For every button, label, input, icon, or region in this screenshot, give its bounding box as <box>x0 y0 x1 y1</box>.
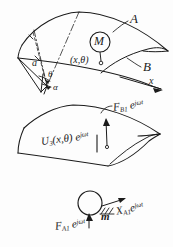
meridian-line-1 <box>47 12 79 86</box>
tick-upper <box>29 35 33 39</box>
meridian-line-2 <box>34 30 47 86</box>
leader-line-a <box>113 21 128 32</box>
coordinate-point-dot <box>99 61 103 65</box>
figure-root: A B M (x,θ) a θ α x FB1 ejωt U3(x,θ) ejω… <box>0 0 173 247</box>
leader-a-path <box>113 21 128 32</box>
hatch-1 <box>101 208 105 214</box>
mass-marker-stem <box>100 52 101 61</box>
wedge-left-line <box>18 58 47 86</box>
middle-panel-left-edge <box>18 128 24 153</box>
middle-panel-lower-edge <box>18 153 108 166</box>
x-axis <box>120 77 161 89</box>
upper-panel-bottom-edge <box>18 58 152 86</box>
upper-shell-panel <box>18 12 168 89</box>
hatch-3 <box>109 208 113 214</box>
middle-panel-top-edge <box>24 105 160 134</box>
wedge-generator-lines <box>18 58 47 94</box>
leader-b-path <box>127 58 141 67</box>
mass-marker-circle <box>90 32 110 52</box>
mass-support-hatch <box>100 208 114 214</box>
disp-xa1-arrowhead <box>118 198 126 203</box>
upper-panel-right-tip <box>143 51 168 52</box>
x-axis-line <box>120 77 161 89</box>
lumped-mass-circle <box>78 191 102 215</box>
force-b1-arrowhead <box>103 118 110 126</box>
sketch-canvas <box>0 0 173 247</box>
leader-line-b <box>127 58 141 67</box>
x-axis-arrowhead <box>153 88 163 93</box>
radius-tick-marks <box>29 35 39 60</box>
upper-panel-left-edge <box>18 45 22 58</box>
middle-panel-lower-right <box>108 134 160 166</box>
force-b1-base-dot <box>105 145 108 148</box>
wedge-apex-left <box>18 58 41 92</box>
middle-shell-panel <box>18 105 160 166</box>
upper-panel-construction-lines <box>34 12 79 86</box>
hatch-2 <box>105 208 109 214</box>
